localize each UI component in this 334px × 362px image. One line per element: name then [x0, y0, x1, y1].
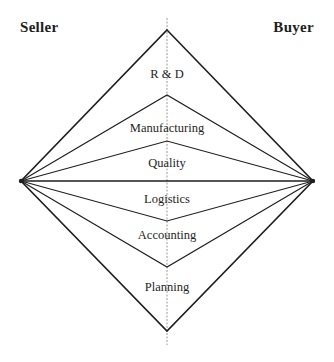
buyer-label: Buyer [273, 19, 314, 36]
band-label-planning: Planning [0, 281, 334, 294]
seller-label: Seller [20, 19, 58, 36]
band-label-logistics: Logistics [0, 193, 334, 206]
buyer-vertex [311, 179, 315, 183]
band-label-rd: R & D [0, 68, 334, 81]
band-label-quality: Quality [0, 157, 334, 170]
band-label-accounting: Accounting [0, 229, 334, 242]
seller-vertex [19, 179, 23, 183]
band-label-manufacturing: Manufacturing [0, 122, 334, 135]
diamond-diagram [0, 0, 334, 362]
